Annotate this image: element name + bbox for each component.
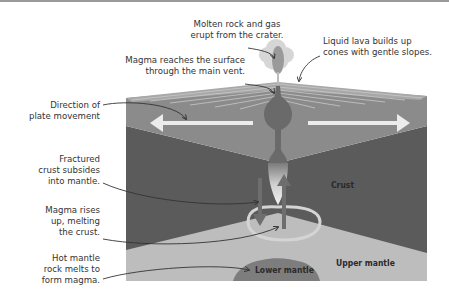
annotation-magma-surface: Magma reaches the surface through the ma… bbox=[95, 55, 245, 77]
eruption-plume bbox=[259, 39, 294, 74]
layer-label-crust: Crust bbox=[331, 180, 354, 190]
layer-label-lower-mantle: Lower mantle bbox=[255, 265, 314, 275]
annotation-fractured-crust: Fractured crust subsides into mantle. bbox=[5, 154, 100, 187]
annotation-magma-rises: Magma rises up, melting the crust. bbox=[5, 205, 100, 238]
annotation-hot-mantle: Hot mantle rock melts to form magma. bbox=[5, 253, 100, 286]
annotation-plate-movement: Direction of plate movement bbox=[5, 100, 100, 122]
layer-label-upper-mantle: Upper mantle bbox=[336, 258, 395, 268]
leader-liquid-lava bbox=[299, 56, 320, 81]
annotation-liquid-lava: Liquid lava builds up cones with gentle … bbox=[323, 36, 448, 58]
annotation-molten-rock: Molten rock and gas erupt from the crate… bbox=[182, 19, 292, 41]
